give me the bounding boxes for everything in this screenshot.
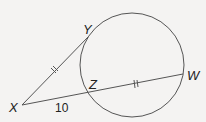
label-y: Y [83, 22, 93, 37]
congruence-ticks-zw [134, 80, 138, 88]
measure-xz: 10 [55, 101, 69, 115]
label-x: X [8, 100, 19, 115]
diagram-svg: Y Z W X 10 [0, 0, 206, 122]
circle [80, 13, 184, 117]
tangent-segment-xy [22, 37, 88, 105]
congruence-ticks-xy [51, 66, 58, 73]
geometry-figure: Y Z W X 10 [0, 0, 206, 122]
label-z: Z [88, 77, 98, 92]
secant-segment-xw [22, 74, 183, 105]
label-w: W [187, 68, 201, 83]
